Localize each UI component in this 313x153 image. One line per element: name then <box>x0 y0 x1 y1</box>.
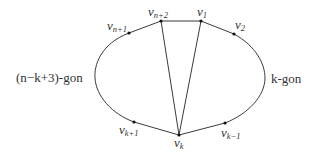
edge-v1-v2 <box>201 21 234 34</box>
label-v1: v1 <box>197 4 207 20</box>
diagonal-vn2-vk <box>161 21 179 135</box>
label-vk1: vk+1 <box>119 122 139 138</box>
label-v2: v2 <box>235 17 246 33</box>
left-region-label: (n−k+3)-gon <box>16 70 83 85</box>
label-vkm1: vk−1 <box>221 125 241 141</box>
label-vn2: vn+2 <box>148 4 169 20</box>
edge-vk1-vk <box>134 122 179 135</box>
label-vn1: vn+1 <box>107 18 127 34</box>
vertex-dot-vn1 <box>127 31 130 34</box>
right-region-label: k-gon <box>271 71 302 86</box>
diagonal-v1-vk <box>179 21 201 135</box>
vertex-dot-v2 <box>232 32 235 35</box>
left-arc <box>95 33 134 122</box>
label-vk: vk <box>174 135 184 151</box>
right-arc <box>225 34 265 123</box>
vertex-dot-vk1 <box>132 120 135 123</box>
edge-vn1-vn2 <box>129 21 161 33</box>
edge-vk-vkm1 <box>179 123 225 135</box>
polygon-diagram: vn+2 v1 vn+1 v2 vk+1 vk−1 vk (n−k+3)-gon… <box>0 0 313 153</box>
